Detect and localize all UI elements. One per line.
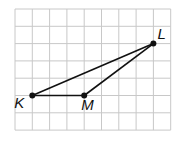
vertex-L [150, 41, 156, 47]
vertex-label-M: M [81, 96, 94, 113]
segment-KL [32, 44, 153, 96]
vertex-K [29, 93, 35, 99]
vertex-label-L: L [157, 25, 165, 42]
triangle-grid-diagram: KML [0, 0, 180, 142]
triangle-segments [32, 44, 153, 96]
vertices: KML [14, 25, 165, 113]
vertex-label-K: K [14, 94, 25, 111]
